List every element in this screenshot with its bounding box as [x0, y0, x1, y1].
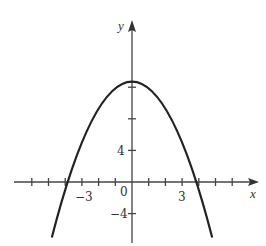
x-axis-label: x	[249, 186, 256, 201]
parabola-graph: y x 0 −3 3 4 −4	[0, 0, 266, 246]
y-tick-label-neg4: −4	[110, 207, 128, 221]
x-tick-label-3: 3	[178, 190, 186, 204]
y-axis-label: y	[116, 18, 124, 33]
origin-label: 0	[120, 185, 128, 199]
x-tick-label-neg3: −3	[75, 190, 93, 204]
y-tick-label-4: 4	[117, 144, 125, 158]
